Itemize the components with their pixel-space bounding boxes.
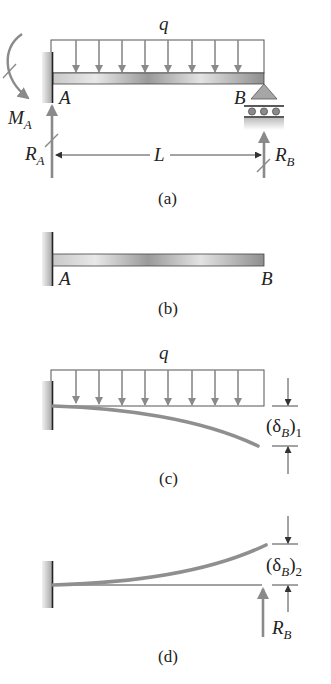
reaction-b-label: RB: [275, 145, 295, 164]
reaction-a-label: RA: [25, 144, 45, 163]
point-b-label: B: [234, 88, 246, 107]
beam: [53, 73, 264, 84]
fixed-wall: [42, 561, 52, 608]
load-arrows: [76, 40, 238, 72]
deflected-curve: [53, 545, 266, 585]
deflection-label-2: (δB)2: [266, 555, 302, 574]
distributed-load-box: [51, 370, 264, 406]
caption-d: (d): [158, 648, 178, 665]
moment-arrow: [8, 34, 28, 98]
load-label: q: [159, 343, 169, 362]
fixed-wall: [42, 52, 52, 103]
deflection-label-1: (δB)1: [266, 416, 302, 435]
load-arrows: [76, 370, 238, 405]
fixed-wall: [42, 381, 52, 430]
point-b-label: B: [261, 269, 273, 288]
roller-support: [251, 84, 277, 99]
caption-b: (b): [158, 300, 178, 317]
distributed-load-box: [51, 40, 264, 73]
point-a-label: A: [59, 88, 71, 107]
caption-a: (a): [158, 190, 177, 207]
reaction-b-label: RB: [272, 618, 292, 637]
load-label: q: [159, 14, 169, 33]
length-label: L: [154, 145, 165, 164]
deflected-curve: [53, 406, 258, 446]
caption-c: (c): [159, 470, 178, 487]
moment-label: MA: [8, 108, 32, 127]
panel-c: [42, 370, 298, 474]
panel-b: [42, 232, 264, 286]
fixed-wall: [42, 232, 52, 286]
panel-d: [42, 516, 298, 637]
point-a-label: A: [59, 269, 71, 288]
released-beam: [53, 254, 264, 266]
